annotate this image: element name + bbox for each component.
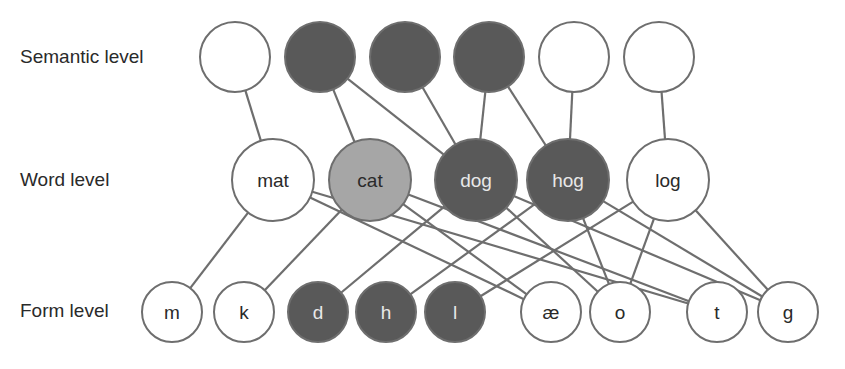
semantic-node-circle [624,22,694,92]
semantic-node-s5 [539,22,609,92]
semantic-node-circle [539,22,609,92]
semantic-node-circle [454,22,524,92]
word-node-log: log [627,139,709,221]
interactive-activation-diagram: Semantic level Word level Form level mat… [0,0,845,369]
edge-s1-mat [245,90,261,140]
form-node-m: m [142,282,202,342]
word-node-label: hog [552,170,584,191]
nodes-layer: matcatdoghoglogmkdhlæotg [142,22,818,342]
edge-mat-m [190,213,248,289]
semantic-node-circle [370,22,440,92]
word-node-label: log [655,170,680,191]
semantic-node-s2 [285,22,355,92]
semantic-node-s4 [454,22,524,92]
form-node-g: g [758,282,818,342]
semantic-node-s1 [200,22,270,92]
form-node-o: o [590,282,650,342]
word-node-hog: hog [527,139,609,221]
edge-s4-dog [480,92,485,139]
semantic-node-circle [200,22,270,92]
form-node-h: h [356,282,416,342]
edge-s6-log [662,92,665,139]
form-node-label: o [615,302,626,323]
form-node-label: g [783,302,794,323]
edge-s5-hog [570,92,572,139]
form-node-label: h [381,302,392,323]
semantic-node-circle [285,22,355,92]
form-node-d: d [288,282,348,342]
word-node-label: mat [257,170,289,191]
edge-s4-hog [508,86,546,145]
semantic-node-s3 [370,22,440,92]
form-node-k: k [214,282,274,342]
word-node-label: dog [460,170,492,191]
form-node-l: l [425,282,485,342]
form-node-label: t [714,302,720,323]
edge-s3-dog [422,87,455,144]
semantic-node-s6 [624,22,694,92]
word-node-cat: cat [329,139,411,221]
form-node-ae: æ [521,282,581,342]
word-node-dog: dog [435,139,517,221]
edge-s2-cat [333,89,354,142]
form-node-label: k [239,302,249,323]
form-node-label: d [313,302,324,323]
edge-log-o [630,219,654,284]
network-graph: matcatdoghoglogmkdhlæotg [0,0,845,369]
word-node-label: cat [357,170,383,191]
word-node-mat: mat [232,139,314,221]
form-node-label: m [164,302,180,323]
form-node-t: t [687,282,747,342]
form-node-label: l [453,302,457,323]
form-node-label: æ [543,302,560,323]
